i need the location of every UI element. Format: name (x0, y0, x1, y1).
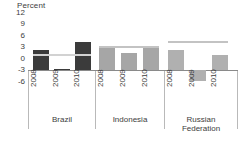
x-label-brazil-2009: 2009 (51, 69, 60, 87)
bar-brazil-2010 (75, 42, 91, 70)
group-label-russia: Russian Federation (166, 115, 236, 133)
bar-chart: Percent 12 9 6 3 0 -3 -6 2008 2009 2010 … (0, 0, 242, 143)
bar-brazil-2008 (33, 50, 49, 70)
reference-line-russia (168, 41, 228, 43)
plot-area-indonesia (97, 13, 161, 70)
x-label-indonesia-2008: 2008 (96, 69, 105, 87)
y-tick-0: 0 (0, 55, 25, 63)
bar-russia-2010 (212, 55, 228, 70)
x-label-russia-2009: 2009 (187, 69, 196, 87)
group-label-brazil: Brazil (30, 115, 94, 124)
bar-russia-2008 (168, 50, 184, 70)
y-tick-neg3: -3 (0, 66, 25, 74)
plot-area-brazil (28, 13, 92, 70)
reference-line-brazil (33, 54, 91, 56)
x-label-russia-2008: 2008 (165, 69, 174, 87)
y-tick-9: 9 (0, 20, 25, 28)
x-label-brazil-2010: 2010 (72, 69, 81, 87)
y-tick-3: 3 (0, 43, 25, 51)
y-tick-6: 6 (0, 32, 25, 40)
x-label-brazil-2008: 2008 (29, 69, 38, 87)
reference-line-indonesia (99, 46, 159, 48)
y-tick-12: 12 (0, 9, 25, 17)
group-separator-right (237, 71, 238, 129)
x-label-indonesia-2010: 2010 (140, 69, 149, 87)
y-tick-neg6: -6 (0, 78, 25, 86)
bar-indonesia-2009 (121, 53, 137, 70)
bar-indonesia-2010 (143, 47, 159, 70)
x-label-russia-2010: 2010 (209, 69, 218, 87)
group-label-indonesia: Indonesia (97, 115, 163, 124)
x-label-indonesia-2009: 2009 (118, 69, 127, 87)
plot-area-russia-negative (166, 70, 236, 82)
bar-indonesia-2008 (99, 47, 115, 70)
plot-area-russia (166, 13, 236, 70)
